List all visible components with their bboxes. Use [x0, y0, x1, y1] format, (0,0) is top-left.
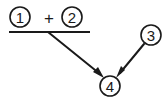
node-1: 1 [10, 7, 30, 27]
plus-operator: + [44, 9, 54, 28]
node-2: 2 [62, 7, 82, 27]
diagram-svg: 1 + 2 3 4 [0, 0, 168, 100]
node-4-label: 4 [106, 78, 114, 95]
node-1-label: 1 [16, 9, 24, 26]
arrow-sum-to-node-4 [48, 32, 104, 78]
diagram-canvas: 1 + 2 3 4 [0, 0, 168, 100]
node-2-label: 2 [68, 9, 76, 26]
node-4: 4 [100, 76, 120, 96]
node-3-label: 3 [147, 27, 155, 44]
node-3: 3 [141, 25, 161, 45]
arrow-node-3-to-node-4 [116, 44, 144, 78]
arrow-sum-to-node-4-shaft [48, 32, 100, 74]
